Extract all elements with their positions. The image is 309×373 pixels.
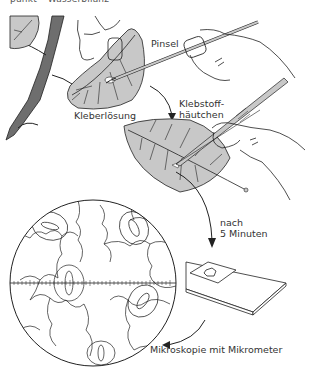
microscope-view-icon — [10, 200, 176, 366]
leaf-top-left-icon — [10, 16, 39, 49]
label-after-line1: nach — [220, 217, 243, 228]
label-after-line2: 5 Minuten — [220, 228, 268, 239]
illustration-frame: punkt – Wasserbilanz — [0, 0, 309, 373]
arrow-step-1-icon — [150, 86, 172, 115]
leaf-imprint-illustration — [0, 0, 309, 373]
label-glue-solution: Kleberlösung — [74, 110, 136, 121]
arrow-step-3-icon — [168, 320, 205, 345]
label-microscopy: Mikroskopie mit Mikrometer — [150, 344, 282, 355]
label-brush: Pinsel — [151, 38, 179, 49]
leaf-with-glue-icon — [67, 29, 144, 109]
label-glue-skin-line2: häutchen — [179, 109, 224, 120]
microscope-slide-icon — [186, 262, 286, 315]
hand-holding-brush-icon — [183, 30, 295, 81]
label-glue-skin-line1: Klebstoff- — [179, 98, 224, 109]
